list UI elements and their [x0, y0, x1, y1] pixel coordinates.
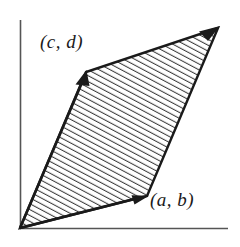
vector-ab-label: (a, b): [150, 189, 194, 211]
vector-diagram-svg: [0, 0, 240, 247]
vector-cd-label: (c, d): [40, 31, 83, 53]
vector-parallelogram-figure: (c, d) (a, b): [0, 0, 240, 247]
